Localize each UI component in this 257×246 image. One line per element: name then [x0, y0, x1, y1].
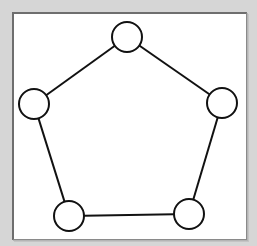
pentagon-graph: [0, 0, 257, 246]
node-top: [112, 22, 142, 52]
edge-left-top: [34, 37, 127, 104]
edge-top-right: [127, 37, 222, 103]
edge-right-bottom-right: [189, 103, 222, 214]
graph-nodes: [19, 22, 237, 231]
graph-edges: [34, 37, 222, 216]
edge-bottom-left-left: [34, 104, 69, 216]
node-bottom-left: [54, 201, 84, 231]
node-left: [19, 89, 49, 119]
diagram-stage: [0, 0, 257, 246]
node-right: [207, 88, 237, 118]
edge-bottom-right-bottom-left: [69, 214, 189, 216]
node-bottom-right: [174, 199, 204, 229]
